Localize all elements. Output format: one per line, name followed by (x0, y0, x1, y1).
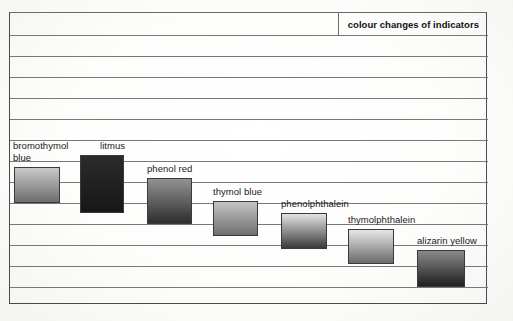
indicator-swatch-bromothymol-blue (14, 167, 60, 203)
indicator-label-thymolphthalein: thymolphthalein (348, 214, 415, 226)
label-line: bromothymol (13, 140, 95, 152)
gridline (10, 77, 488, 78)
indicator-label-thymol-blue: thymol blue (213, 186, 262, 198)
gridline (10, 98, 488, 99)
indicator-label-bromothymol-blue: bromothymolblue (13, 140, 95, 163)
label-line: blue (13, 152, 95, 164)
indicator-swatch-alizarin-yellow (417, 250, 465, 287)
indicator-label-alizarin-yellow: alizarin yellow (417, 235, 477, 247)
gridline (10, 56, 488, 57)
gridline (10, 119, 488, 120)
indicator-swatch-litmus (80, 155, 124, 213)
gridline (10, 287, 488, 288)
chart-title: colour changes of indicators (338, 13, 486, 36)
indicator-swatch-thymol-blue (213, 201, 258, 236)
chart-frame: colour changes of indicators bromothymol… (9, 12, 487, 304)
indicator-swatch-phenol-red (147, 178, 192, 224)
indicator-swatch-phenolphthalein (281, 213, 327, 249)
indicator-label-phenolphthalein: phenolphthalein (281, 198, 349, 210)
indicator-label-phenol-red: phenol red (147, 163, 192, 175)
indicator-label-litmus: litmus (100, 140, 125, 152)
indicator-swatch-thymolphthalein (348, 229, 394, 264)
